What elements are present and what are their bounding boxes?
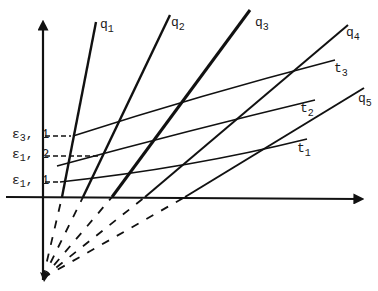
q5-line [185, 88, 364, 197]
q1-label: q1 [100, 17, 114, 35]
q5-label: q5 [358, 91, 372, 109]
q4-label: q4 [346, 25, 360, 43]
t3-label: t3 [334, 61, 348, 79]
epsilon-1-2-label: ε1, 2 [12, 147, 49, 164]
q3-label: q3 [255, 15, 269, 33]
epsilon-1-1-label: ε1, 1 [12, 173, 49, 190]
diagram-canvas: q1 q2 q3 q4 q5 t3 t2 t1 ε3, 1 ε1, 2 ε1, … [0, 0, 378, 291]
q1-line [62, 22, 96, 197]
epsilon-3-1-label: ε3, 1 [12, 127, 49, 144]
q2-label: q2 [171, 15, 185, 33]
t1-label: t1 [297, 141, 311, 159]
t2-label: t2 [300, 101, 314, 119]
dashed-projection-lines [43, 197, 185, 278]
